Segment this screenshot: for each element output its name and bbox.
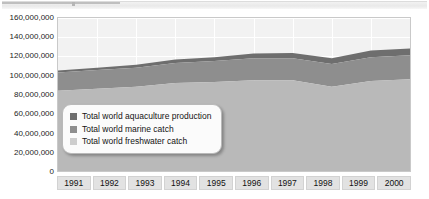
gridline-vertical	[410, 18, 411, 171]
legend-swatch-aquaculture	[70, 113, 77, 120]
x-axis-tick-label: 2000	[377, 176, 411, 190]
legend-item: Total world marine catch	[70, 123, 211, 135]
x-axis-tick-label: 1992	[93, 176, 127, 190]
x-axis-tick-label: 1998	[306, 176, 340, 190]
y-axis-tick-label: 140,000,000	[10, 33, 55, 41]
y-axis-tick-label: 100,000,000	[10, 72, 55, 80]
y-axis-tick-label: 160,000,000	[10, 14, 55, 22]
legend-label: Total world marine catch	[82, 125, 174, 134]
y-axis-tick-label: 20,000,000	[14, 149, 54, 157]
x-axis-tick-label: 1999	[342, 176, 376, 190]
legend-item: Total world aquaculture production	[70, 111, 211, 123]
x-axis-tick-label: 1997	[271, 176, 305, 190]
legend-item: Total world freshwater catch	[70, 136, 211, 148]
x-axis-tick-label: 1993	[128, 176, 162, 190]
x-axis-tick-label: 1991	[57, 176, 91, 190]
x-axis-tick-label: 1994	[164, 176, 198, 190]
y-axis-tick-label: 40,000,000	[14, 130, 54, 138]
x-axis-tick-label: 1995	[199, 176, 233, 190]
y-axis-tick-label: 60,000,000	[14, 110, 54, 118]
legend-swatch-marine	[70, 126, 77, 133]
top-edge-artifact	[2, 1, 427, 9]
stacked-area-chart: 160,000,000 140,000,000 120,000,000 100,…	[0, 0, 429, 199]
y-axis-tick-label: 120,000,000	[10, 52, 55, 60]
x-axis-tick-labels: 1991199219931994199519961997199819992000	[57, 176, 411, 192]
legend-swatch-freshwater	[70, 138, 77, 145]
legend-label: Total world freshwater catch	[82, 137, 187, 146]
artifact-mark	[72, 2, 75, 6]
legend-label: Total world aquaculture production	[82, 112, 211, 121]
y-axis-tick-label: 0	[50, 168, 54, 176]
y-axis-tick-labels: 160,000,000 140,000,000 120,000,000 100,…	[0, 0, 56, 199]
chart-legend: Total world aquaculture production Total…	[62, 104, 222, 154]
y-axis-tick-label: 80,000,000	[14, 91, 54, 99]
x-axis-tick-label: 1996	[235, 176, 269, 190]
